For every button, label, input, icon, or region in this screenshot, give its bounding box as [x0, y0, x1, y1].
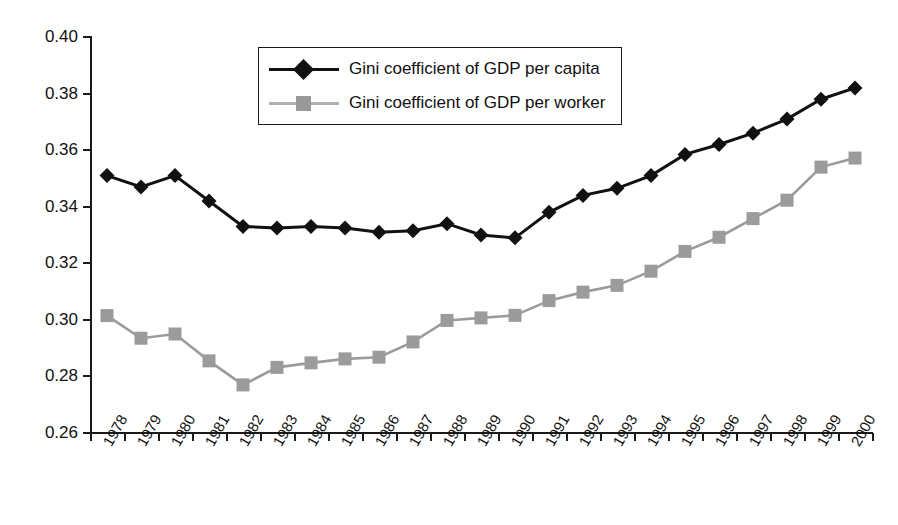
data-point [611, 279, 624, 292]
data-point [610, 181, 625, 196]
data-point [372, 225, 387, 240]
data-point [543, 294, 556, 307]
legend-label: Gini coefficient of GDP per worker [349, 94, 605, 112]
legend-label: Gini coefficient of GDP per capita [349, 60, 600, 78]
data-point [339, 352, 352, 365]
data-point [814, 92, 829, 107]
data-point [781, 194, 794, 207]
data-point [780, 112, 795, 127]
data-point [100, 168, 115, 183]
data-point [237, 378, 250, 391]
data-point [713, 231, 726, 244]
legend-item-gdp-per-worker: Gini coefficient of GDP per worker [269, 88, 605, 118]
data-point [270, 220, 285, 235]
data-point [440, 216, 455, 231]
data-point [644, 168, 659, 183]
data-point [576, 188, 591, 203]
data-point [134, 179, 149, 194]
data-point [678, 147, 693, 162]
data-point [338, 220, 353, 235]
data-point [304, 219, 319, 234]
series-square [101, 152, 862, 392]
data-point [169, 328, 182, 341]
data-point [101, 309, 114, 322]
gini-line-chart: 0.400.380.360.340.320.300.280.26 1978197… [0, 0, 898, 525]
data-point [441, 314, 454, 327]
data-point [747, 212, 760, 225]
data-point [474, 228, 489, 243]
data-point [848, 80, 863, 95]
data-point [746, 126, 761, 141]
legend-key-square-icon [269, 92, 339, 114]
data-point [271, 361, 284, 374]
series-line [107, 158, 855, 385]
data-point [509, 309, 522, 322]
data-point [577, 286, 590, 299]
data-point [406, 223, 421, 238]
data-point [407, 335, 420, 348]
data-point [645, 265, 658, 278]
chart-legend: Gini coefficient of GDP per capita Gini … [258, 47, 622, 125]
legend-key-diamond-icon [269, 58, 339, 80]
data-point [815, 161, 828, 174]
legend-item-gdp-per-capita: Gini coefficient of GDP per capita [269, 54, 600, 84]
data-point [679, 245, 692, 258]
data-point [475, 311, 488, 324]
data-point [135, 332, 148, 345]
data-point [203, 354, 216, 367]
data-point [712, 137, 727, 152]
data-point [305, 356, 318, 369]
data-point [849, 152, 862, 165]
data-point [373, 351, 386, 364]
